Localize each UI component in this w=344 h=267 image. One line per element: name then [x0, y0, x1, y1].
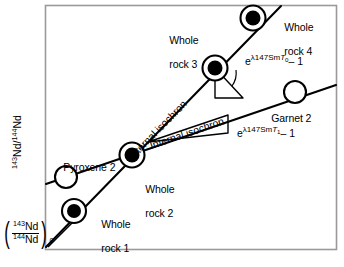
- data-point-garnet-2[interactable]: [284, 81, 306, 103]
- left-paren: (: [4, 220, 10, 246]
- label-whole-rock-1: Whole rock 1: [90, 206, 131, 266]
- external-isochron-slope-expression: eλ147SmT0– 1: [245, 53, 303, 67]
- label-whole-rock-3: Whole rock 3: [158, 22, 199, 82]
- isochron-figure: 143Nd/144Nd ( 143Nd 144Nd ) 0 Whole rock…: [0, 0, 344, 267]
- y-intercept-initial-ratio-label: ( 143Nd 144Nd ) 0: [2, 220, 54, 246]
- initial-ratio-denominator: 144Nd: [12, 234, 39, 246]
- data-point-whole-rock-1[interactable]: [62, 199, 86, 223]
- y-axis-label: 143Nd/144Nd: [11, 94, 23, 190]
- data-point-whole-rock-3[interactable]: [203, 56, 228, 81]
- label-pyroxene-2: Pyroxene 2: [52, 150, 115, 185]
- right-paren: ): [42, 220, 48, 246]
- internal-isochron-slope-expression: eλ147SmT1– 1: [237, 125, 295, 139]
- label-whole-rock-2: Whole rock 2: [134, 171, 175, 231]
- data-point-whole-rock-4[interactable]: [241, 6, 266, 31]
- initial-ratio-subscript: 0: [49, 236, 53, 246]
